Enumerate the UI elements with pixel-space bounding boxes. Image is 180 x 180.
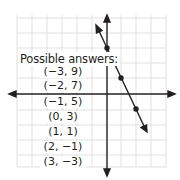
- answer-item: (3, −3): [40, 156, 86, 168]
- answer-item: (−1, 5): [40, 96, 86, 108]
- answer-item: (0, 3): [40, 111, 86, 123]
- answer-item: (−2, 7): [40, 80, 86, 92]
- possible-answers: Possible answers: (−3, 9) (−2, 7) (−1, 5…: [0, 0, 180, 180]
- answers-title: Possible answers:: [19, 52, 119, 66]
- answer-item: (2, −1): [40, 141, 86, 153]
- answer-item: (1, 1): [40, 126, 86, 138]
- answer-item: (−3, 9): [40, 66, 86, 78]
